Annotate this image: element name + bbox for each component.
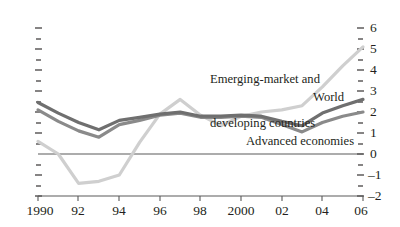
y-tick-label-3: 3: [370, 84, 377, 98]
y-tick-label-neg2: –2: [368, 189, 382, 203]
x-tick-label-1990: 1990: [27, 204, 54, 218]
line-chart-plot: [0, 0, 400, 227]
chart-container: 6 5 4 3 2 1 0 –1 –2 1990 92 94 96 98 200…: [0, 0, 400, 227]
x-tick-label-2000: 2000: [228, 204, 255, 218]
series-label-world: World: [313, 90, 344, 105]
x-tick-label-98: 98: [193, 204, 207, 218]
y-tick-label-neg1: –1: [368, 168, 382, 182]
y-tick-label-2: 2: [370, 105, 377, 119]
x-tick-label-04: 04: [315, 204, 329, 218]
x-tick-label-92: 92: [71, 204, 85, 218]
x-tick-label-06: 06: [354, 204, 368, 218]
y-tick-label-6: 6: [370, 21, 377, 35]
y-tick-label-5: 5: [370, 42, 377, 56]
series-label-emerging-line-1: Emerging-market and: [210, 72, 320, 87]
series-label-emerging-line-2: developing countries: [210, 116, 320, 131]
y-tick-label-1: 1: [370, 126, 377, 140]
x-tick-label-96: 96: [153, 204, 167, 218]
y-tick-label-4: 4: [370, 63, 377, 77]
y-tick-label-0: 0: [370, 147, 377, 161]
x-tick-label-02: 02: [275, 204, 289, 218]
series-label-advanced-economies: Advanced economies: [246, 134, 354, 149]
x-tick-label-94: 94: [112, 204, 126, 218]
x-axis-ticks: [38, 196, 363, 201]
